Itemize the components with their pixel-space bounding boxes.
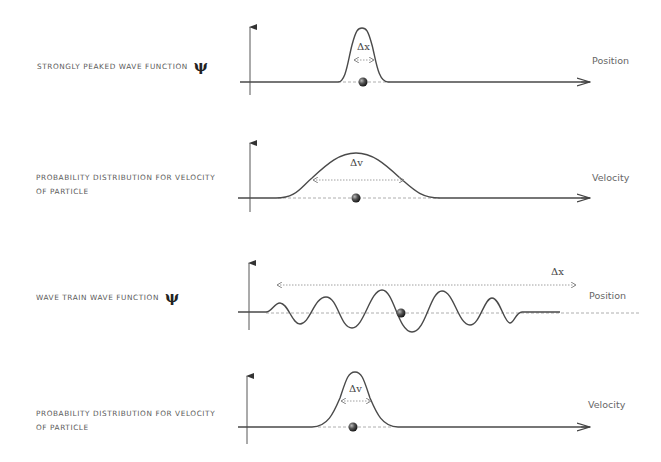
particle-icon — [352, 194, 361, 203]
panel3-width-label: Δx — [551, 266, 564, 277]
particle-icon — [359, 78, 368, 87]
panel2-distribution-curve — [238, 153, 590, 198]
panel3-wave-train-curve-right — [442, 291, 641, 325]
panel1-width-label: Δx — [357, 41, 370, 52]
diagram-canvas: Δx Δv Δx Δv — [0, 0, 661, 462]
panel1-graph: Δx — [240, 27, 590, 95]
panel1-wave-curve — [240, 28, 590, 82]
panel2-graph: Δv — [238, 143, 590, 212]
panel2-width-label: Δv — [350, 157, 363, 168]
particle-icon — [397, 309, 406, 318]
panel4-distribution-curve — [238, 372, 590, 427]
panel3-graph: Δx — [238, 263, 641, 332]
panel4-width-label: Δv — [349, 383, 362, 394]
particle-icon — [349, 423, 358, 432]
panel4-graph: Δv — [238, 372, 590, 444]
